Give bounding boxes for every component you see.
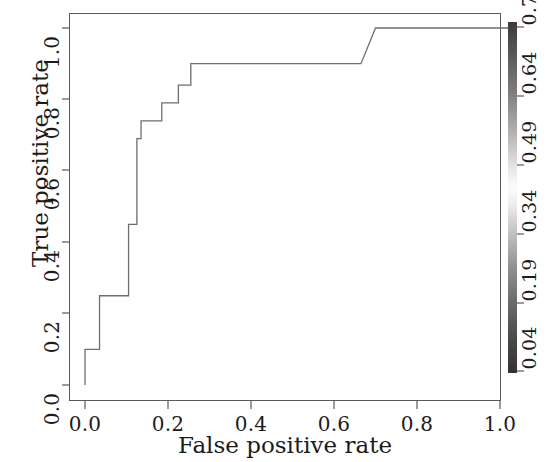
colorbar-tick-label-0.79: 0.79 — [518, 0, 540, 28]
roc-chart-figure: 1.0 0.8 0.6 0.4 0.2 0.0 0.0 0.2 0.4 0.6 … — [0, 0, 552, 462]
y-axis-title: True positive rate — [27, 53, 53, 273]
colorbar-tick-label-0.49: 0.49 — [518, 118, 540, 166]
chart-overlay — [0, 0, 552, 462]
roc-curve — [85, 28, 508, 385]
colorbar-tick-label-0.04: 0.04 — [518, 324, 540, 372]
y-tick-label-0.2: 0.2 — [40, 315, 64, 359]
colorbar-tick-label-0.64: 0.64 — [518, 49, 540, 97]
colorbar-tick-label-0.19: 0.19 — [518, 256, 540, 304]
x-axis-title: False positive rate — [69, 432, 501, 458]
colorbar-tick-label-0.34: 0.34 — [518, 187, 540, 235]
x-axis-ticks — [85, 401, 500, 409]
